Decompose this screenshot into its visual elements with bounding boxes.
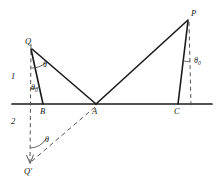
point-label-c: C	[174, 107, 180, 116]
angle-arc-theta-at-qprime	[30, 139, 46, 148]
point-label-q-prime: Q'	[24, 167, 32, 176]
angle-label-theta0-at-p-subscript: 0	[198, 60, 201, 66]
point-label-a: A	[92, 107, 97, 116]
medium-label-2: 2	[11, 117, 15, 126]
angle-arc-theta0-at-p	[184, 61, 191, 62]
point-label-q: Q	[25, 37, 31, 46]
angle-label-theta0-at-p: θ0	[194, 57, 201, 65]
segment-c-p	[178, 21, 188, 104]
point-label-b: B	[40, 107, 45, 116]
optics-ray-diagram: Q B A C P Q' 1 2 θ θ0 θ θ0	[0, 0, 221, 183]
point-label-p: P	[191, 9, 196, 18]
medium-label-1: 1	[11, 72, 15, 81]
angle-label-theta0-at-q-subscript: 0	[35, 87, 38, 93]
angle-label-theta-at-q: θ	[43, 61, 47, 69]
normal-through-q-dashed	[30, 44, 31, 162]
segment-a-p	[96, 20, 188, 104]
angle-label-theta-at-qprime: θ	[45, 136, 49, 144]
normal-through-p-dashed	[189, 22, 191, 106]
angle-label-theta0-at-q: θ0	[31, 84, 38, 92]
